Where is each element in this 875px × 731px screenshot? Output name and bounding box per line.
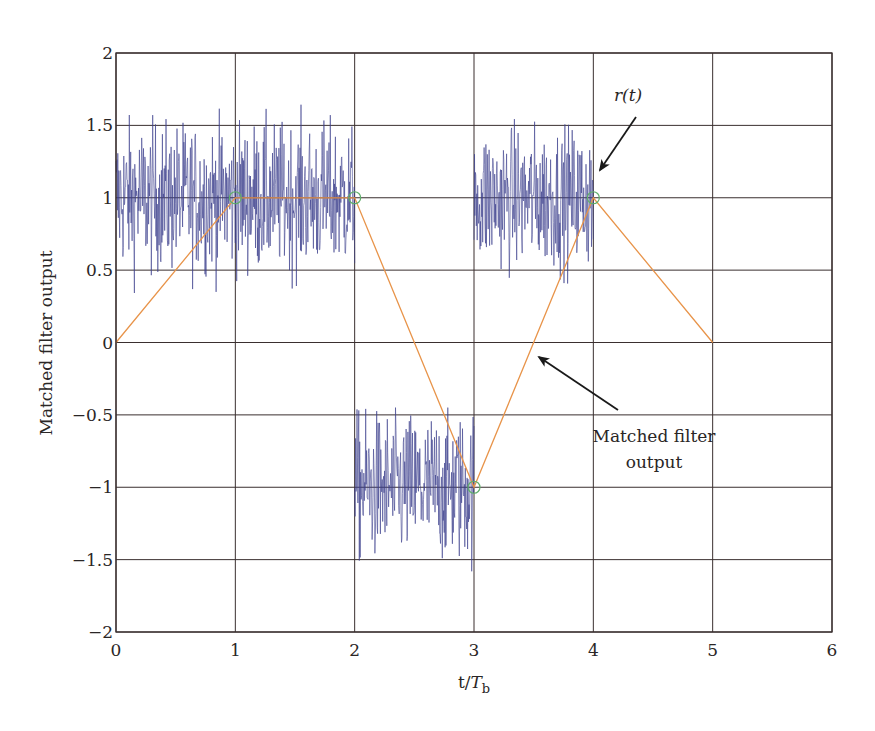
annotation-mf-line1: Matched filter <box>593 426 717 446</box>
noise-segment <box>474 119 593 283</box>
y-tick-label: 1.5 <box>86 115 113 135</box>
y-tick-label: −0.5 <box>72 405 113 425</box>
grid-lines <box>116 53 832 632</box>
x-tick-label: 0 <box>111 640 122 660</box>
x-tick-label: 2 <box>349 640 360 660</box>
x-tick-label: 5 <box>707 640 718 660</box>
y-tick-label: 0 <box>102 333 113 353</box>
chart-canvas: 21.510.50−0.5−1−1.5−2 0123456 Matched fi… <box>0 0 875 731</box>
arrow-icon <box>539 357 618 410</box>
annotation-r-t-label: r(t) <box>614 85 642 105</box>
y-tick-label: −1 <box>88 477 113 497</box>
x-tick-label: 6 <box>827 640 838 660</box>
y-tick-label: 1 <box>102 188 113 208</box>
y-axis-ticks: 21.510.50−0.5−1−1.5−2 <box>72 43 113 642</box>
noise-segment <box>355 408 474 572</box>
y-tick-label: 0.5 <box>86 260 113 280</box>
x-tick-label: 4 <box>588 640 599 660</box>
y-axis-label: Matched filter output <box>36 250 56 435</box>
x-tick-label: 1 <box>230 640 241 660</box>
y-tick-label: −2 <box>88 622 113 642</box>
y-tick-label: 2 <box>102 43 113 63</box>
annotation-mf-line2: output <box>626 452 683 472</box>
x-axis-label-subscript: b <box>482 681 490 696</box>
x-axis-label: t/Tb <box>458 672 490 696</box>
x-axis-label-main: t/ <box>458 672 471 692</box>
annotation-r-t: r(t) <box>600 85 642 170</box>
chart-figure: 21.510.50−0.5−1−1.5−2 0123456 Matched fi… <box>0 0 875 731</box>
x-tick-label: 3 <box>469 640 480 660</box>
y-tick-label: −1.5 <box>72 550 113 570</box>
x-axis-ticks: 0123456 <box>111 640 838 660</box>
